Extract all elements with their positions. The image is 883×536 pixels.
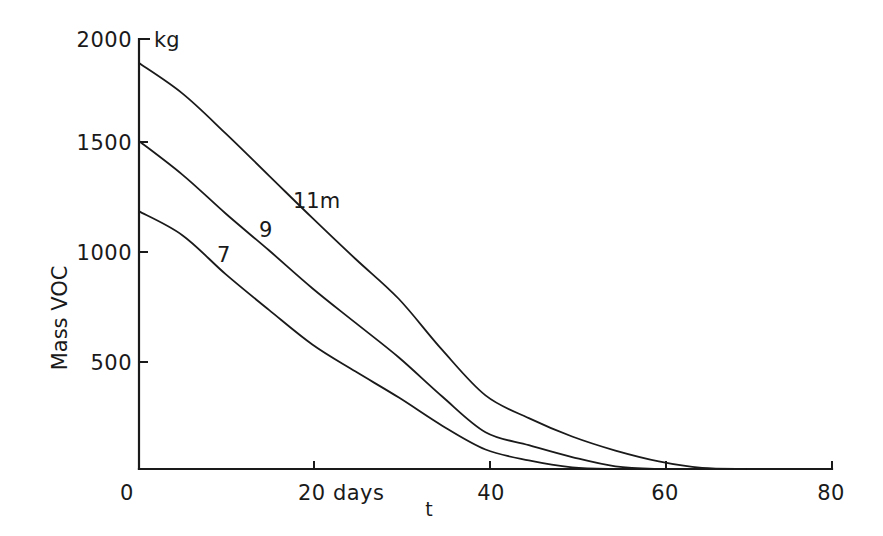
series-line-9: [139, 141, 745, 469]
x-tick-labels: 0 20 days 40 60 80: [120, 481, 845, 505]
y-tick-label-1000: 1000: [77, 241, 132, 265]
y-tick-label-1500: 1500: [77, 131, 132, 155]
chart-canvas: 2000 1500 1000 500 kg Mass VOC 0 20 days…: [0, 0, 883, 536]
axes: [139, 39, 832, 469]
series-label-7: 7: [217, 243, 230, 267]
x-tick-label-0: 0: [120, 481, 134, 505]
x-tick-label-80: 80: [817, 481, 845, 505]
x-tick-label-20: 20 days: [298, 481, 384, 505]
y-unit-label: kg: [154, 28, 180, 52]
y-tick-labels: 2000 1500 1000 500: [77, 28, 132, 375]
chart: 2000 1500 1000 500 kg Mass VOC 0 20 days…: [0, 0, 883, 536]
y-tick-label-500: 500: [90, 351, 132, 375]
series-label-9: 9: [259, 218, 272, 242]
x-tick-label-40: 40: [477, 481, 505, 505]
x-axis-title: t: [425, 498, 432, 520]
y-axis-title: Mass VOC: [48, 266, 72, 371]
y-tick-label-2000: 2000: [77, 28, 132, 52]
series-label-11m: 11m: [293, 189, 340, 213]
x-tick-label-60: 60: [651, 481, 679, 505]
